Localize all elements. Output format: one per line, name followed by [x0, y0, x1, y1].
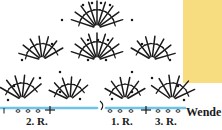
- picot-dot-21: [59, 91, 62, 94]
- picot-dot-14: [105, 59, 108, 62]
- chain-oval-6: [118, 110, 122, 113]
- chain-oval-3: [36, 110, 40, 113]
- label-row-2: 2. R.: [26, 115, 48, 127]
- chain-oval-9: [156, 110, 160, 113]
- picot-dot-17: [39, 77, 42, 80]
- label-wende: Wende: [186, 105, 221, 120]
- picot-dot-20: [177, 85, 180, 88]
- picot-dot-11: [21, 59, 24, 62]
- picot-dot-24: [111, 98, 114, 101]
- chain-oval-5: [108, 110, 112, 113]
- chain-oval-11: [176, 110, 180, 113]
- chain-oval-1: [16, 110, 20, 113]
- chain-oval-2: [26, 110, 30, 113]
- fan-low-cr: [105, 78, 145, 99]
- picot-dot-12: [169, 59, 172, 62]
- picot-dot-22: [131, 91, 134, 94]
- picot-dot-10: [141, 43, 144, 46]
- fan-low-left: [0, 75, 41, 98]
- picot-dot-23: [79, 98, 82, 101]
- picot-dot-13: [87, 59, 90, 62]
- picot-dot-18: [151, 77, 154, 80]
- picot-dot-19: [13, 85, 16, 88]
- diagram-canvas: 2. R. 1. R. 3. R. Wende: [0, 0, 222, 130]
- picot-dot-0: [82, 4, 85, 7]
- picot-dot-4: [61, 19, 64, 22]
- picot-dot-16: [131, 71, 134, 74]
- picot-dot-25: [7, 99, 10, 102]
- fan-top-center: [71, 1, 122, 27]
- picot-dot-3: [109, 4, 112, 7]
- picot-dot-26: [183, 99, 186, 102]
- chain-oval-7: [129, 110, 133, 113]
- fan-low-right: [152, 75, 195, 98]
- picot-dot-5: [131, 19, 134, 22]
- fan-mid-right: [131, 36, 175, 59]
- turning-chain-loop: [100, 101, 103, 110]
- picot-dot-8: [107, 39, 110, 42]
- picot-dot-2: [100, 2, 103, 5]
- fan-low-cl: [49, 77, 87, 98]
- picot-dot-1: [91, 2, 94, 5]
- picot-dot-6: [87, 39, 90, 42]
- fan-mid-left: [19, 36, 63, 59]
- picot-dot-9: [51, 43, 54, 46]
- chain-oval-10: [166, 110, 170, 113]
- picot-dot-7: [97, 39, 100, 42]
- label-row-1: 1. R.: [111, 115, 133, 127]
- fan-mid-center: [71, 33, 122, 59]
- label-row-3: 3. R.: [155, 115, 177, 127]
- picot-dot-15: [59, 71, 62, 74]
